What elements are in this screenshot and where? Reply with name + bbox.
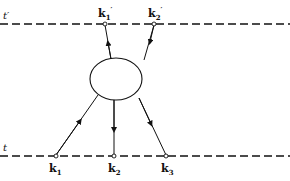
feynman-diagram	[0, 0, 290, 181]
vertex-k3	[164, 154, 168, 158]
vertex-k1-prime	[103, 22, 107, 26]
vertex-k1	[54, 154, 58, 158]
label-k1-prime: k1′	[98, 6, 112, 21]
label-k2: k2	[108, 163, 121, 176]
lower-time-label: t	[3, 143, 7, 153]
vertex-k2-prime	[152, 22, 156, 26]
label-k2-prime: k2′	[148, 6, 162, 21]
interaction-blob	[90, 58, 142, 100]
upper-time-label: t′	[3, 11, 9, 21]
label-k1: k1	[49, 163, 62, 176]
label-k3: k3	[161, 163, 174, 176]
vertex-k2	[112, 154, 116, 158]
